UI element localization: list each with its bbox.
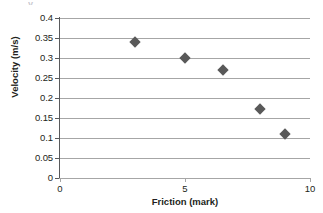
x-tick-label: 0 — [45, 184, 75, 194]
y-tick-mark — [55, 158, 59, 159]
y-tick-mark — [55, 38, 59, 39]
y-tick-mark — [55, 18, 59, 19]
y-tick-mark — [55, 98, 59, 99]
y-tick-mark — [55, 58, 59, 59]
gridline — [60, 158, 310, 159]
y-axis-title: Velocity (m/s) — [10, 12, 20, 122]
scatter-chart: y 00.050.10.150.20.250.30.350.4 0510 Vel… — [0, 0, 323, 213]
data-point-marker — [179, 52, 190, 63]
x-axis-title: Friction (mark) — [60, 197, 310, 207]
y-tick-mark — [55, 118, 59, 119]
gridline — [60, 138, 310, 139]
x-tick-label: 5 — [170, 184, 200, 194]
data-point-marker — [217, 64, 228, 75]
gridline — [60, 38, 310, 39]
gridline — [60, 78, 310, 79]
gridline — [60, 18, 310, 19]
y-tick-label: 0.1 — [7, 133, 53, 143]
y-tick-mark — [55, 178, 59, 179]
cropped-text-above-chart: y — [28, 0, 208, 5]
data-point-marker — [254, 104, 265, 115]
plot-area — [60, 18, 310, 178]
y-tick-label: 0 — [7, 173, 53, 183]
gridline — [60, 98, 310, 99]
y-tick-mark — [55, 78, 59, 79]
gridline — [60, 178, 310, 179]
x-tick-mark — [310, 178, 311, 182]
y-tick-label: 0.05 — [7, 153, 53, 163]
x-tick-label: 10 — [295, 184, 323, 194]
y-tick-mark — [55, 138, 59, 139]
gridline — [60, 118, 310, 119]
